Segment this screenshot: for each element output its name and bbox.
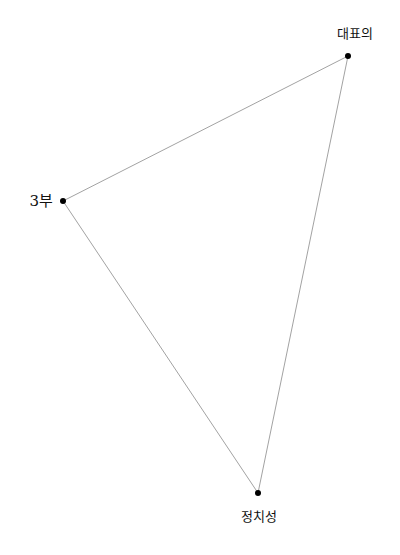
edge-bottom-top: [258, 56, 348, 493]
node-label-bottom: 정치성: [241, 510, 277, 523]
edge-left-bottom: [63, 201, 258, 493]
node-dot-left: [60, 198, 66, 204]
node-label-top: 대표의: [337, 27, 373, 40]
node-dot-bottom: [255, 490, 261, 496]
triangle-diagram: [0, 0, 400, 555]
node-label-left: 3부: [29, 194, 53, 209]
edge-top-left: [63, 56, 348, 201]
node-dot-top: [345, 53, 351, 59]
